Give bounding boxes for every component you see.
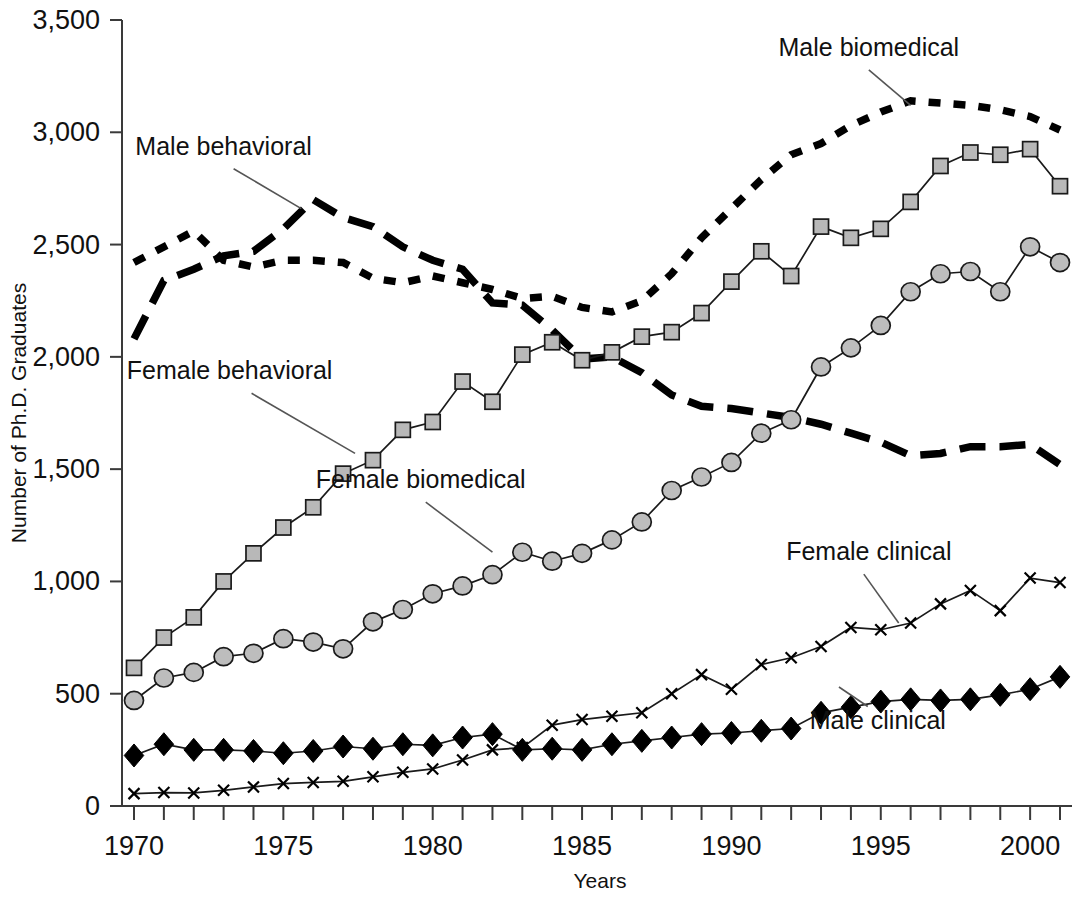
series-label-female-biomedical: Female biomedical: [316, 465, 526, 493]
data-point-marker: [363, 613, 382, 631]
data-point-marker: [453, 577, 472, 595]
data-point-marker: [274, 742, 294, 765]
series-label-male-biomedical: Male biomedical: [779, 33, 960, 61]
y-axis-title: Number of Ph.D. Graduates: [7, 283, 30, 543]
data-point-marker: [125, 691, 144, 709]
data-point-marker: [782, 411, 801, 429]
data-point-marker: [572, 738, 592, 761]
data-point-marker: [602, 733, 622, 756]
data-point-marker: [931, 265, 950, 283]
data-point-marker: [395, 422, 410, 437]
data-point-marker: [1021, 238, 1040, 256]
series-female-biomedical: [125, 238, 1070, 710]
series-layer: [124, 101, 1070, 799]
data-point-marker: [662, 481, 681, 499]
data-point-marker: [304, 633, 323, 651]
data-point-marker: [246, 546, 261, 561]
data-point-marker: [1051, 254, 1070, 272]
data-point-marker: [692, 723, 712, 746]
data-point-marker: [662, 726, 682, 749]
data-point-marker: [543, 552, 562, 570]
data-point-marker: [995, 605, 1006, 616]
x-tick-label: 1995: [851, 831, 911, 861]
data-point-marker: [634, 329, 649, 344]
x-tick-label: 1970: [104, 831, 164, 861]
series-line: [134, 149, 1060, 668]
data-point-marker: [485, 394, 500, 409]
data-point-marker: [393, 733, 413, 756]
data-point-marker: [632, 513, 651, 531]
y-tick-label: 500: [55, 679, 100, 709]
data-point-marker: [127, 660, 142, 675]
data-point-marker: [455, 374, 470, 389]
series-line: [134, 247, 1060, 701]
data-point-marker: [963, 145, 978, 160]
data-point-marker: [812, 358, 831, 376]
annotation-leader-line: [252, 393, 355, 453]
y-tick-label: 2,000: [32, 342, 100, 372]
data-point-marker: [873, 221, 888, 236]
data-point-marker: [784, 269, 799, 284]
series-label-male-behavioral: Male behavioral: [135, 132, 312, 160]
annotation-leader-line: [864, 574, 899, 623]
data-point-marker: [276, 520, 291, 535]
y-tick-label: 2,500: [32, 230, 100, 260]
y-tick-label: 3,000: [32, 117, 100, 147]
data-point-marker: [423, 585, 442, 603]
annotation-leader-line: [869, 70, 911, 105]
data-point-marker: [457, 754, 468, 765]
annotation-leader-line: [234, 169, 302, 209]
data-point-marker: [184, 738, 204, 761]
x-tick-label: 1975: [253, 831, 313, 861]
data-point-marker: [993, 147, 1008, 162]
series-male-behavioral: [134, 200, 1060, 465]
data-point-marker: [666, 688, 677, 699]
data-point-marker: [754, 244, 769, 259]
data-point-marker: [752, 719, 772, 742]
data-point-marker: [214, 648, 233, 666]
data-point-marker: [901, 283, 920, 301]
data-point-marker: [186, 610, 201, 625]
series-female-clinical: [129, 573, 1066, 800]
data-point-marker: [154, 669, 173, 687]
data-point-marker: [244, 644, 263, 662]
data-point-marker: [814, 219, 829, 234]
data-point-marker: [990, 683, 1010, 706]
data-point-marker: [575, 353, 590, 368]
x-tick-label: 1990: [701, 831, 761, 861]
x-ticks: 1970197519801985199019952000: [104, 831, 1060, 861]
data-point-marker: [841, 339, 860, 357]
x-tick-label: 1985: [552, 831, 612, 861]
series-line: [134, 200, 1060, 465]
data-point-marker: [816, 641, 827, 652]
data-point-marker: [542, 737, 562, 760]
data-point-marker: [724, 274, 739, 289]
y-tick-label: 0: [85, 791, 100, 821]
data-point-marker: [156, 630, 171, 645]
series-label-female-clinical: Female clinical: [786, 537, 951, 565]
data-point-marker: [425, 414, 440, 429]
data-point-marker: [694, 306, 709, 321]
data-point-marker: [333, 735, 353, 758]
data-point-marker: [393, 601, 412, 619]
data-point-marker: [935, 598, 946, 609]
series-female-behavioral: [127, 142, 1068, 676]
data-point-marker: [664, 325, 679, 340]
chart-container: 05001,0001,5002,0002,5003,0003,500 19701…: [0, 0, 1075, 903]
phd-graduates-line-chart: 05001,0001,5002,0002,5003,0003,500 19701…: [0, 0, 1075, 903]
data-point-marker: [515, 347, 530, 362]
series-annotations: Male biomedicalMale behavioralFemale beh…: [127, 33, 959, 734]
data-point-marker: [696, 669, 707, 680]
data-point-marker: [752, 424, 771, 442]
data-point-marker: [453, 726, 473, 749]
data-point-marker: [991, 283, 1010, 301]
data-point-marker: [306, 500, 321, 515]
data-point-marker: [933, 158, 948, 173]
data-point-marker: [726, 684, 737, 695]
data-point-marker: [632, 729, 652, 752]
series-line: [134, 578, 1060, 794]
y-tick-label: 1,000: [32, 566, 100, 596]
data-point-marker: [843, 230, 858, 245]
x-tick-label: 1980: [403, 831, 463, 861]
data-point-marker: [244, 739, 264, 762]
